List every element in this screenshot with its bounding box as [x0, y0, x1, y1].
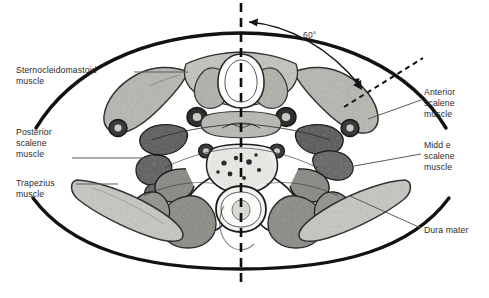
jugular-vein-right — [341, 120, 359, 137]
anatomy-illustration-canvas — [0, 0, 489, 298]
label-trapezius: Trapezius muscle — [16, 178, 55, 200]
label-anterior-scalene: Anterior scalene muscle — [424, 87, 455, 121]
label-dura-mater: Dura mater — [424, 225, 468, 236]
label-middle-scalene: Midd e scalene muscle — [424, 140, 455, 174]
jugular-vein-left — [109, 120, 127, 137]
anatomy-figure: Sternocleidomastoid muscle Posterior sca… — [0, 0, 489, 298]
label-posterior-scalene: Posterior scalene muscle — [16, 127, 52, 161]
label-sternocleidomastoid: Sternocleidomastoid muscle — [16, 65, 97, 87]
angle-label-60-degrees: 60° — [303, 30, 316, 40]
spinal-canal-dura-mater — [216, 186, 266, 232]
